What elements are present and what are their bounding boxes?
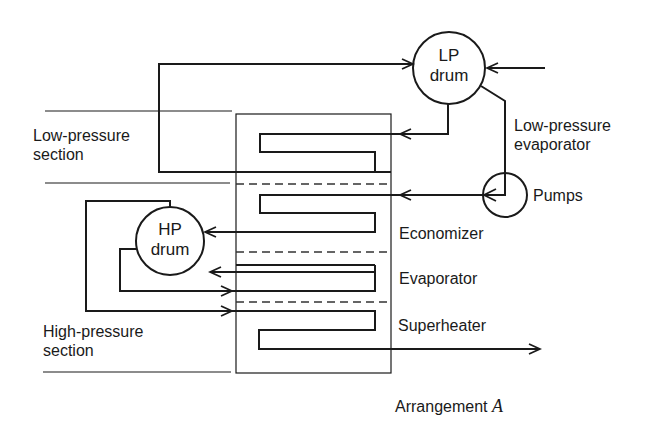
pumps-label: Pumps [533, 186, 583, 205]
evaporator-coil-lower [232, 265, 375, 291]
evaporator-label: Evaporator [399, 269, 477, 288]
label-line: drum [135, 240, 205, 260]
label-line: High-pressure [43, 322, 143, 341]
caption-variable: A [492, 396, 503, 416]
label-line: section [33, 145, 130, 164]
economizer-coil [205, 195, 400, 232]
label-line: section [43, 341, 143, 360]
lp-evaporator-coil [260, 134, 400, 172]
label-line: Low-pressure [33, 126, 130, 145]
hp-drum-label: HP drum [135, 220, 205, 260]
label-line: evaporator [514, 135, 611, 154]
heat-recovery-diagram [0, 0, 660, 433]
superheater-label: Superheater [398, 316, 486, 335]
label-line: HP [135, 220, 205, 240]
high-pressure-section-label: High-pressure section [43, 322, 143, 360]
lp-drum-label: LP drum [414, 46, 484, 86]
label-line: Low-pressure [514, 116, 611, 135]
low-pressure-section-label: Low-pressure section [33, 126, 130, 164]
label-line: LP [414, 46, 484, 66]
lp-drum-to-pumps-line [481, 86, 505, 195]
lp-evaporator-label: Low-pressure evaporator [514, 116, 611, 154]
caption-text: Arrangement [395, 398, 488, 415]
evaporator-return-line [210, 265, 375, 272]
superheater-coil-and-outlet [232, 311, 540, 349]
label-line: drum [414, 66, 484, 86]
lp-drum-to-coil-line [400, 104, 448, 134]
economizer-label: Economizer [399, 224, 483, 243]
diagram-caption: Arrangement A [395, 397, 503, 416]
